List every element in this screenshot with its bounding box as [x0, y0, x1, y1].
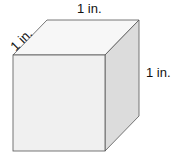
- cube-figure: [0, 0, 176, 161]
- right-edge-label: 1 in.: [146, 66, 171, 79]
- cube-front-face: [13, 55, 105, 151]
- top-edge-label: 1 in.: [77, 2, 102, 15]
